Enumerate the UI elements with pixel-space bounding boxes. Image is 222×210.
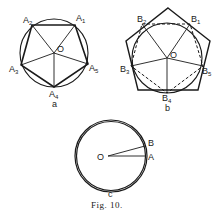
- label-b1: B1: [191, 14, 201, 25]
- label-b2: B2: [137, 14, 147, 25]
- diagram-b-labels: B2 B1 O B3 B5 B4 b: [120, 14, 212, 113]
- sublabel-c: c: [108, 189, 113, 199]
- label-o-c: O: [97, 152, 104, 162]
- label-b: B: [148, 138, 154, 148]
- label-b5: B5: [202, 66, 212, 77]
- sublabel-b: b: [165, 103, 170, 113]
- label-a5: A5: [89, 63, 99, 74]
- figure-10: A2 A1 O A3 A5 A4 a B2 B1 O B3 B5 B4 b O …: [0, 0, 222, 210]
- label-a: A: [148, 152, 154, 162]
- label-o-a: O: [57, 44, 64, 54]
- figure-caption: Fig. 10.: [91, 200, 123, 210]
- label-b3: B3: [120, 64, 130, 75]
- label-a1: A1: [76, 13, 86, 24]
- diagram-a: [20, 19, 88, 87]
- sublabel-a: a: [52, 99, 57, 109]
- radius-ob: [108, 146, 145, 156]
- label-a3: A3: [9, 64, 19, 75]
- label-o-b: O: [170, 50, 177, 60]
- diagram-c: [75, 120, 147, 192]
- label-a2: A2: [23, 15, 33, 26]
